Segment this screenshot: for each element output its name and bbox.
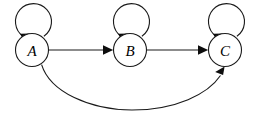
edge-a-to-c-curve xyxy=(42,65,221,110)
self-loop-b-arc xyxy=(113,4,149,37)
self-loop-c-arc xyxy=(208,4,244,37)
edge-a-to-b-arrowhead xyxy=(103,45,113,54)
node-a-label: A xyxy=(26,43,37,59)
graph-canvas: A B C xyxy=(0,0,262,122)
node-c-label: C xyxy=(220,43,231,59)
node-c[interactable]: C xyxy=(209,34,242,67)
node-a[interactable]: A xyxy=(16,34,49,67)
edge-a-to-c[interactable] xyxy=(42,65,225,110)
state-transition-diagram: A B C xyxy=(0,0,262,122)
self-loop-a-arc xyxy=(15,4,51,37)
node-b-label: B xyxy=(125,43,134,59)
edge-b-to-c[interactable] xyxy=(147,45,208,54)
edge-a-to-b[interactable] xyxy=(49,45,113,54)
edge-a-to-c-arrowhead xyxy=(215,67,224,75)
edge-b-to-c-arrowhead xyxy=(198,45,208,54)
node-b[interactable]: B xyxy=(114,34,147,67)
